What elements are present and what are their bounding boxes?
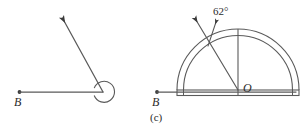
geometry-figure: B B O 62° (c) [0, 0, 304, 130]
protractor-diagram [155, 20, 299, 96]
measured-ray-with-arrowhead [196, 20, 238, 90]
label-b-left: B [14, 96, 21, 108]
label-centre-o: O [243, 82, 252, 94]
label-b-right: B [152, 96, 159, 108]
label-angle-measure: 62° [213, 6, 228, 17]
figure-caption: (c) [150, 112, 162, 123]
slanted-ray-with-arrowhead [64, 20, 104, 92]
reflex-angle-diagram [18, 20, 115, 102]
